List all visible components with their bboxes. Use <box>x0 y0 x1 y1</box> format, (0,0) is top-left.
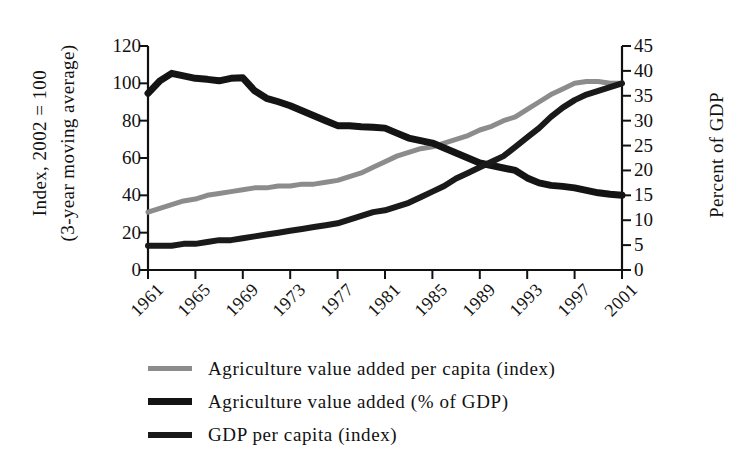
chart-figure: Index, 2002 = 100 (3-year moving average… <box>0 0 746 475</box>
chart-legend: Agriculture value added per capita (inde… <box>148 352 668 451</box>
legend-item-label: GDP per capita (index) <box>208 424 397 446</box>
legend-item[interactable]: Agriculture value added (% of GDP) <box>148 385 668 418</box>
series-line-2 <box>148 73 622 195</box>
series-line-3 <box>148 83 622 245</box>
legend-item[interactable]: Agriculture value added per capita (inde… <box>148 352 668 385</box>
legend-item-label: Agriculture value added per capita (inde… <box>208 358 556 380</box>
legend-swatch-line-icon <box>148 398 192 405</box>
legend-item-label: Agriculture value added (% of GDP) <box>208 391 509 413</box>
legend-swatch-line-icon <box>148 432 192 438</box>
legend-item[interactable]: GDP per capita (index) <box>148 418 668 451</box>
series-line-1 <box>148 81 622 212</box>
legend-swatch-line-icon <box>148 366 192 371</box>
